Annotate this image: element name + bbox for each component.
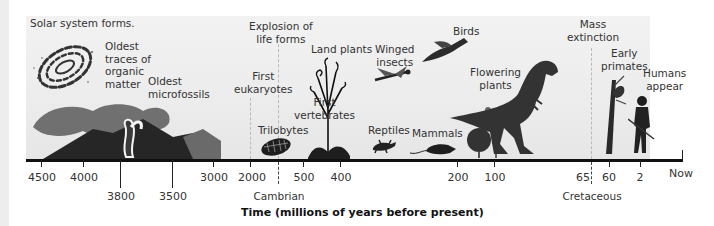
label-line: Humans: [643, 67, 686, 80]
trilobyte-icon: [259, 135, 293, 157]
tick-400: [340, 160, 341, 167]
tick-label-65: 65: [576, 171, 590, 184]
period-label-cretaceous: Cretaceous: [562, 190, 621, 202]
tick-3800: [120, 160, 121, 188]
volcanoes-icon: [33, 97, 223, 159]
label-organic-matter: Oldest traces of organic matter: [105, 40, 151, 90]
tick-2: [640, 160, 641, 167]
tick-label-200: 200: [448, 171, 469, 184]
tick-label-3800: 3800: [107, 190, 135, 203]
label-line: First: [294, 96, 355, 109]
tick-label-60: 60: [602, 171, 616, 184]
label-mass-extinction: Mass extinction: [567, 18, 619, 43]
page-edge-shadow: [0, 0, 9, 226]
label-birds: Birds: [453, 25, 479, 38]
tick-label-4000: 4000: [70, 171, 98, 184]
extinction-guide-line: [591, 48, 592, 159]
early-human-icon: [628, 95, 658, 155]
label-line: plants: [470, 79, 521, 92]
label-line: insects: [375, 56, 415, 69]
label-line: Explosion of: [249, 20, 313, 33]
tick-label-2000: 2000: [238, 171, 266, 184]
axis-title: Time (millions of years before present): [241, 206, 484, 219]
tick-now: [682, 150, 683, 160]
label-mammals: Mammals: [412, 127, 463, 140]
label-line: traces of: [105, 53, 151, 66]
label-trilobytes: Trilobytes: [258, 124, 308, 137]
label-solar-system: Solar system forms.: [30, 17, 135, 30]
label-line: organic: [105, 65, 151, 78]
eukaryotes-guide-line: [250, 98, 251, 159]
lizard-icon: [371, 138, 397, 154]
tick-3500: [172, 160, 173, 188]
label-line: Early: [601, 47, 648, 60]
tick-label-400: 400: [331, 171, 352, 184]
tick-3000: [213, 160, 214, 167]
tick-label-3000: 3000: [200, 171, 228, 184]
cretaceous-marker: [591, 162, 592, 184]
period-label-cambrian: Cambrian: [254, 190, 305, 202]
label-line: matter: [105, 78, 151, 91]
tick-label-2: 2: [637, 171, 644, 184]
label-line: Flowering: [470, 66, 521, 79]
primate-in-tree-icon: [602, 74, 628, 154]
label-flowering-plants: Flowering plants: [470, 66, 521, 91]
label-land-plants: Land plants: [311, 43, 372, 56]
label-humans-appear: Humans appear: [643, 67, 686, 92]
label-line: Oldest: [148, 75, 210, 88]
label-line: life forms: [249, 33, 313, 46]
tick-label-now: Now: [669, 167, 693, 180]
tick-label-3500: 3500: [159, 190, 187, 203]
label-oldest-microfossils: Oldest microfossils: [148, 75, 210, 100]
tick-label-500: 500: [294, 171, 315, 184]
label-first-eukaryotes: First eukaryotes: [234, 70, 292, 95]
cambrian-marker: [278, 162, 279, 184]
tick-label-100: 100: [485, 171, 506, 184]
label-reptiles: Reptiles: [368, 124, 410, 137]
label-line: vertebrates: [294, 109, 355, 122]
time-axis-line: [26, 159, 683, 162]
label-explosion-of-life: Explosion of life forms: [249, 20, 313, 45]
label-early-primates: Early primates: [601, 47, 648, 72]
label-line: Winged: [375, 43, 415, 56]
tick-100: [494, 160, 495, 167]
tick-2000: [250, 160, 251, 167]
tick-60: [609, 160, 610, 167]
label-line: primates: [601, 60, 648, 73]
label-line: Mass: [567, 18, 619, 31]
label-line: First: [234, 70, 292, 83]
tick-200: [457, 160, 458, 167]
label-line: microfossils: [148, 88, 210, 101]
galaxy-icon: [30, 38, 100, 96]
label-line: Oldest: [105, 40, 151, 53]
label-line: eukaryotes: [234, 83, 292, 96]
tick-4000: [83, 160, 84, 167]
label-line: extinction: [567, 31, 619, 44]
label-line: appear: [643, 80, 686, 93]
label-first-vertebrates: First vertebrates: [294, 96, 355, 121]
tick-500: [303, 160, 304, 167]
tick-4500: [41, 160, 42, 167]
label-winged-insects: Winged insects: [375, 43, 415, 68]
tick-label-4500: 4500: [28, 171, 56, 184]
